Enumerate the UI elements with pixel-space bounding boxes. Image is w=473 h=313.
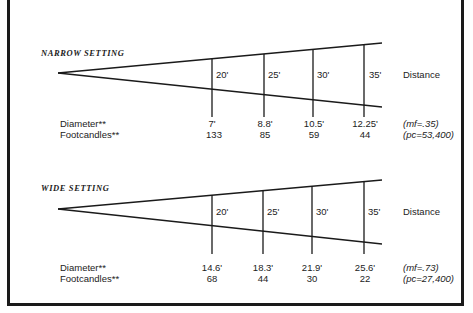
narrow-distance-label: Distance xyxy=(403,69,440,80)
narrow-footcandles-35: 44 xyxy=(345,129,385,140)
narrow-footcandles-label: Footcandles** xyxy=(60,129,119,140)
narrow-pc-note: (pc=53,400) xyxy=(403,129,454,140)
wide-footcandles-30: 30 xyxy=(292,273,332,284)
narrow-diameter-35: 12.25' xyxy=(345,118,385,129)
wide-distance-30: 30' xyxy=(316,206,328,217)
wide-diameter-30: 21.9' xyxy=(292,262,332,273)
wide-distance-label: Distance xyxy=(403,206,440,217)
wide-footcandles-label: Footcandles** xyxy=(60,273,119,284)
wide-pc-note: (pc=27,400) xyxy=(403,273,454,284)
wide-diameter-20: 14.6' xyxy=(192,262,232,273)
narrow-distance-35: 35' xyxy=(369,69,381,80)
wide-diameter-label: Diameter** xyxy=(60,262,106,273)
narrow-footcandles-30: 59 xyxy=(294,129,334,140)
wide-mf-note: (mf=.73) xyxy=(403,262,439,273)
wide-setting-title: WIDE SETTING xyxy=(41,183,109,193)
narrow-setting-title: NARROW SETTING xyxy=(41,48,125,58)
narrow-diameter-20: 7' xyxy=(192,118,232,129)
wide-footcandles-25: 44 xyxy=(243,273,283,284)
narrow-distance-25: 25' xyxy=(268,69,280,80)
wide-distance-20: 20' xyxy=(216,206,228,217)
wide-distance-35: 35' xyxy=(368,206,380,217)
wide-footcandles-35: 22 xyxy=(345,273,385,284)
narrow-diameter-label: Diameter** xyxy=(60,118,106,129)
wide-diameter-25: 18.3' xyxy=(243,262,283,273)
narrow-mf-note: (mf=.35) xyxy=(403,118,439,129)
narrow-footcandles-20: 133 xyxy=(194,129,234,140)
wide-distance-25: 25' xyxy=(267,206,279,217)
wide-footcandles-20: 68 xyxy=(192,273,232,284)
wide-diameter-35: 25.6' xyxy=(345,262,385,273)
narrow-distance-30: 30' xyxy=(317,69,329,80)
narrow-distance-20: 20' xyxy=(216,69,228,80)
narrow-diameter-25: 8.8' xyxy=(245,118,285,129)
narrow-diameter-30: 10.5' xyxy=(294,118,334,129)
narrow-footcandles-25: 85 xyxy=(245,129,285,140)
